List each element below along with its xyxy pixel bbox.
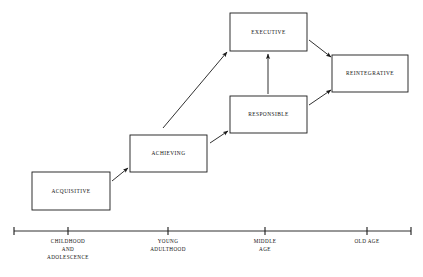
stage-box-layer: ACQUISITIVEACHIEVINGRESPONSIBLEEXECUTIVE…: [32, 13, 408, 210]
arrow-executive-to-reintegrative: [309, 40, 331, 57]
axis-label-line: YOUNG: [158, 238, 179, 244]
axis-label-childhood-and-adolescence: CHILDHOODANDADOLESCENCE: [47, 238, 89, 260]
stages-of-development-diagram: ACQUISITIVEACHIEVINGRESPONSIBLEEXECUTIVE…: [0, 0, 423, 277]
stage-node-responsible[interactable]: RESPONSIBLE: [230, 96, 307, 133]
stage-node-reintegrative[interactable]: REINTEGRATIVE: [332, 55, 408, 92]
stage-node-executive[interactable]: EXECUTIVE: [230, 13, 307, 51]
diagram-canvas: ACQUISITIVEACHIEVINGRESPONSIBLEEXECUTIVE…: [0, 0, 423, 277]
arrow-achieving-to-executive: [163, 52, 227, 128]
axis-label-line: ADOLESCENCE: [47, 254, 89, 260]
axis-label-line: AND: [62, 246, 74, 252]
axis-label-middle-age: MIDDLEAGE: [254, 238, 277, 252]
stage-node-acquisitive[interactable]: ACQUISITIVE: [32, 172, 110, 210]
stage-label-reintegrative: REINTEGRATIVE: [346, 70, 394, 76]
axis-label-line: ADULTHOOD: [150, 246, 186, 252]
axis-label-line: CHILDHOOD: [51, 238, 85, 244]
stage-label-acquisitive: ACQUISITIVE: [51, 188, 90, 194]
axis-label-line: OLD AGE: [354, 238, 379, 244]
arrow-responsible-to-reintegrative: [309, 90, 331, 105]
stage-label-achieving: ACHIEVING: [152, 150, 186, 156]
age-axis-layer: CHILDHOODANDADOLESCENCEYOUNGADULTHOODMID…: [14, 227, 411, 260]
axis-label-old-age: OLD AGE: [354, 238, 379, 244]
stage-label-executive: EXECUTIVE: [251, 29, 286, 35]
axis-label-line: MIDDLE: [254, 238, 277, 244]
arrow-achieving-to-responsible: [210, 131, 228, 143]
stage-node-achieving[interactable]: ACHIEVING: [130, 135, 207, 172]
axis-label-line: AGE: [259, 246, 271, 252]
arrow-acquisitive-to-achieving: [112, 168, 128, 181]
stage-label-responsible: RESPONSIBLE: [248, 111, 289, 117]
axis-label-young-adulthood: YOUNGADULTHOOD: [150, 238, 186, 252]
